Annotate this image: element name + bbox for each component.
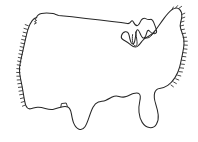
us-outline-map-figure [0, 0, 198, 142]
map-canvas [0, 0, 198, 142]
